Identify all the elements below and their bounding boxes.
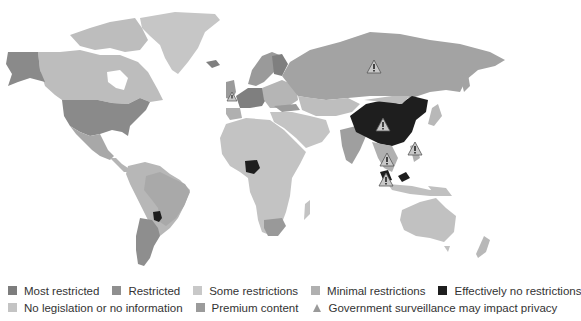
region-new-zealand[interactable] [476,236,490,258]
legend-row-1: Most restricted Restricted Some restrict… [8,282,513,299]
legend-item-no-legislation[interactable]: No legislation or no information [8,302,183,314]
legend-label: Premium content [212,302,299,314]
legend-label: Minimal restrictions [327,285,425,297]
legend-label: Effectively no restrictions [454,285,581,297]
world-map[interactable] [0,0,513,272]
region-australia[interactable] [400,198,456,242]
legend-row-2: No legislation or no information Premium… [8,299,513,316]
some-restrictions-swatch [193,286,202,295]
warning-triangle-icon [313,304,321,312]
restricted-swatch [112,286,121,295]
region-canada[interactable] [38,50,163,104]
region-south-africa[interactable] [264,218,286,236]
region-canada-islands[interactable] [70,18,148,52]
map-legend: Most restricted Restricted Some restrict… [8,282,513,316]
legend-label: Government surveillance may impact priva… [328,302,557,314]
region-greenland[interactable] [140,12,220,74]
most-restricted-swatch [8,286,17,295]
region-iberia[interactable] [226,108,242,120]
region-africa[interactable] [220,118,306,236]
region-central-america[interactable] [110,158,130,172]
legend-item-minimal-restrictions[interactable]: Minimal restrictions [311,285,425,297]
region-russia[interactable] [282,32,505,100]
legend-item-government-surveillance[interactable]: Government surveillance may impact priva… [311,302,557,314]
minimal-restrictions-swatch [311,286,320,295]
effectively-no-restrictions-swatch [438,286,447,295]
premium-content-swatch [196,303,205,312]
legend-item-restricted[interactable]: Restricted [112,285,180,297]
legend-label: Most restricted [24,285,99,297]
legend-label: Some restrictions [209,285,298,297]
legend-item-premium-content[interactable]: Premium content [196,302,299,314]
region-japan[interactable] [428,104,442,126]
legend-item-effectively-no-restrictions[interactable]: Effectively no restrictions [438,285,581,297]
no-legislation-swatch [8,303,17,312]
legend-label: No legislation or no information [24,302,183,314]
region-iceland[interactable] [206,60,220,68]
warning-triangle-icon[interactable] [408,142,422,155]
legend-label: Restricted [128,285,180,297]
legend-item-some-restrictions[interactable]: Some restrictions [193,285,298,297]
legend-item-most-restricted[interactable]: Most restricted [8,285,99,297]
